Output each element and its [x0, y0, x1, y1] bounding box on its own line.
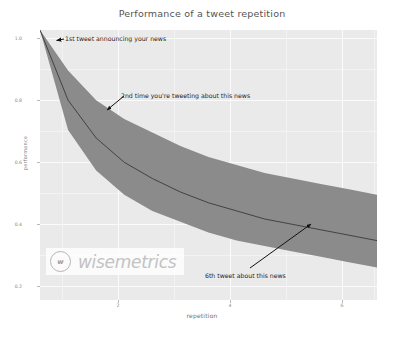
y-tick-label: 1.0: [0, 36, 22, 41]
x-tick-label: 6: [327, 303, 357, 308]
x-tick-label: 2: [103, 303, 133, 308]
wisemetrics-watermark: w wisemetrics: [46, 248, 184, 275]
x-tick-label: 4: [215, 303, 245, 308]
y-axis-label: performance: [22, 123, 28, 183]
chart-figure: Performance of a tweet repetition 1.0 0.…: [0, 0, 404, 341]
confidence-band: [40, 30, 377, 268]
annotation-label-sixth-tweet: 6th tweet about this news: [205, 272, 286, 279]
annotation-label-second-tweet: 2nd time you're tweeting about this news: [121, 92, 250, 99]
annotation-label-first-tweet: 1st tweet announcing your news: [65, 35, 166, 42]
y-tick-label: 0.6: [0, 160, 22, 165]
x-axis-label: repetition: [0, 312, 404, 319]
y-tick-label: 0.2: [0, 284, 22, 289]
y-tick-label: 0.4: [0, 222, 22, 227]
wisemetrics-logo-icon: w: [50, 251, 71, 272]
y-tick-label: 0.8: [0, 98, 22, 103]
chart-title: Performance of a tweet repetition: [0, 8, 404, 19]
wisemetrics-wordmark: wisemetrics: [78, 252, 176, 272]
